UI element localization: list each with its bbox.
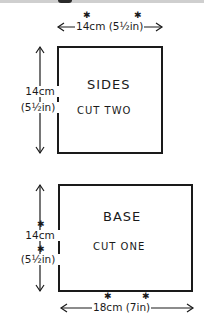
base-height-cm: 14cm (20, 230, 60, 241)
base-width-in: (7in) (126, 301, 150, 313)
base-height-cm-marker-icon: ✱ (37, 220, 45, 229)
base-height-in: (5½in) (16, 254, 60, 265)
sides-width-in: (5½in) (109, 20, 144, 32)
base-piece-outline (59, 185, 192, 291)
sides-width-cm-marker-icon: ✱ (83, 11, 91, 20)
sides-height-in: (5½in) (16, 102, 60, 113)
base-cut-instruction: CUT ONE (93, 242, 145, 252)
base-width-in-marker-icon: ✱ (142, 292, 150, 301)
sides-width-cm: 14cm (76, 20, 105, 32)
base-width-label: 18cm (7in) (92, 302, 151, 313)
base-width-cm: 18cm (93, 301, 122, 313)
base-title: BASE (103, 210, 141, 223)
sides-cut-instruction: CUT TWO (77, 106, 131, 116)
sides-width-in-marker-icon: ✱ (134, 11, 142, 20)
base-width-cm-marker-icon: ✱ (104, 292, 112, 301)
sides-width-label: 14cm (5½in) (75, 21, 144, 32)
sides-piece-outline (58, 47, 162, 153)
sides-title: SIDES (87, 78, 131, 91)
sides-height-arrow (36, 47, 44, 153)
sides-height-cm: 14cm (20, 86, 60, 97)
pattern-diagram (0, 0, 204, 326)
